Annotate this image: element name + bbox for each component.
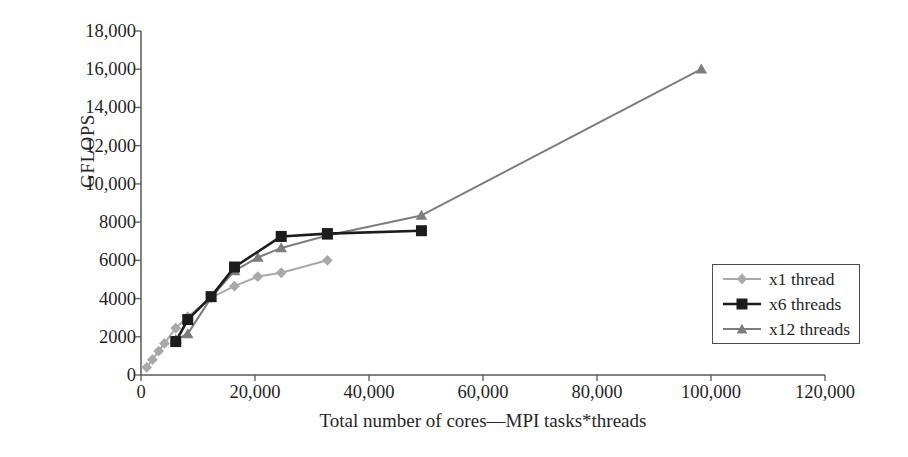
series-line [176, 69, 702, 339]
series-x12-threads [170, 64, 707, 344]
legend-marker-diamond-icon [721, 269, 763, 289]
chart-figure: GFLOPS Total number of cores—MPI tasks*t… [0, 0, 908, 457]
data-point-triangle [182, 328, 194, 338]
data-point-square [276, 231, 287, 242]
legend-label-x6-threads: x6 threads [769, 294, 841, 315]
plot-area [0, 0, 908, 457]
data-point-triangle [416, 210, 428, 220]
data-point-triangle [696, 64, 708, 74]
data-point-diamond [229, 281, 240, 292]
data-point-diamond [322, 255, 333, 266]
legend-item-x1-thread: x1 thread [721, 267, 835, 291]
data-point-square [206, 291, 217, 302]
data-point-square [322, 228, 333, 239]
legend-label-x1-thread: x1 thread [769, 269, 835, 290]
data-point-square [170, 336, 181, 347]
legend-item-x12-threads: x12 threads [721, 317, 850, 341]
legend-marker-square-icon [721, 294, 763, 314]
series-line [147, 260, 328, 367]
series-line [176, 231, 422, 342]
data-point-diamond [252, 271, 263, 282]
data-point-square [229, 262, 240, 273]
chart-legend: x1 thread x6 threads x12 threads [712, 264, 860, 344]
data-point-square [416, 225, 427, 236]
data-point-square [182, 314, 193, 325]
legend-item-x6-threads: x6 threads [721, 292, 841, 316]
legend-marker-triangle-icon [721, 319, 763, 339]
legend-label-x12-threads: x12 threads [769, 319, 850, 340]
data-point-diamond [276, 267, 287, 278]
